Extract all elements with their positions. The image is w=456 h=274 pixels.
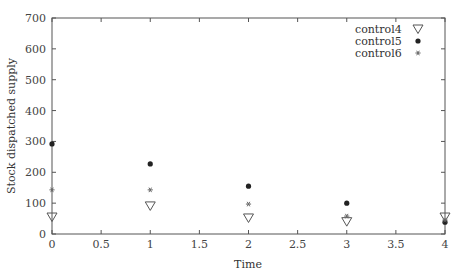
triangle-marker-icon: [244, 214, 254, 223]
y-axis-title: Stock dispatched supply: [5, 57, 18, 194]
legend: control4control5control6: [355, 23, 423, 60]
x-tick-label: 0: [49, 238, 56, 251]
y-tick-label: 600: [25, 43, 46, 56]
triangle-marker-icon: [413, 25, 423, 34]
circle-marker-icon: [415, 38, 420, 43]
y-tick-label: 500: [25, 74, 46, 87]
y-tick-label: 400: [25, 105, 46, 118]
x-tick-label: 1: [147, 238, 154, 251]
star-marker-icon: [415, 51, 420, 56]
x-tick-label: 2: [245, 238, 252, 251]
circle-marker-icon: [148, 161, 153, 166]
x-tick-label: 3: [343, 238, 350, 251]
triangle-marker-icon: [342, 218, 352, 227]
data-points: [47, 141, 450, 226]
x-tick-label: 3.5: [387, 238, 405, 251]
x-tick-label: 4: [442, 238, 449, 251]
legend-label: control6: [355, 47, 402, 60]
star-marker-icon: [148, 188, 153, 193]
scatter-chart: 0100200300400500600700 00.511.522.533.54…: [0, 0, 456, 274]
x-tick-label: 0.5: [92, 238, 110, 251]
star-marker-icon: [246, 202, 251, 207]
circle-marker-icon: [344, 201, 349, 206]
triangle-marker-icon: [145, 202, 155, 211]
y-tick-label: 100: [25, 197, 46, 210]
circle-marker-icon: [49, 141, 54, 146]
y-tick-label: 300: [25, 135, 46, 148]
y-tick-label: 200: [25, 166, 46, 179]
x-tick-label: 2.5: [289, 238, 307, 251]
x-tick-label: 1.5: [191, 238, 209, 251]
x-axis-title: Time: [234, 258, 262, 271]
circle-marker-icon: [246, 184, 251, 189]
y-tick-label: 700: [25, 12, 46, 25]
y-tick-label: 0: [39, 228, 46, 241]
